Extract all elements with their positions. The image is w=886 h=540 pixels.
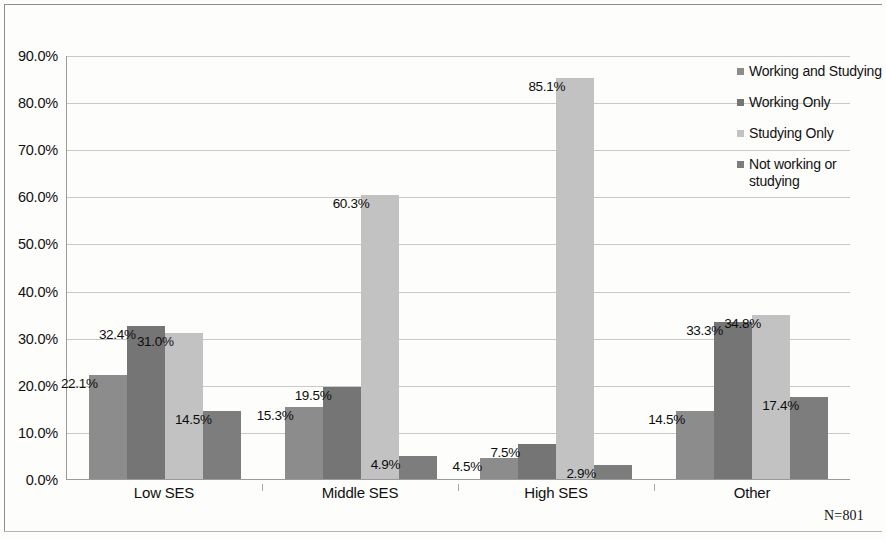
bar-value-label: 2.9% [566, 466, 596, 481]
x-tick-mark [654, 484, 655, 491]
legend-item[interactable]: Not working or studying [737, 156, 883, 190]
x-tick-label: Low SES [66, 484, 262, 510]
bar[interactable]: 19.5% [323, 387, 361, 479]
y-tick-label: 30.0% [0, 331, 58, 347]
legend-label: Not working or studying [749, 156, 883, 190]
legend-swatch-icon [737, 99, 744, 106]
bar[interactable]: 22.1% [89, 375, 127, 479]
bar-value-label: 4.5% [452, 459, 482, 474]
bar-slot: 7.5% [518, 56, 556, 479]
sample-size-note: N=801 [824, 508, 864, 524]
bar[interactable]: 14.5% [676, 411, 714, 479]
bar-slot: 22.1% [89, 56, 127, 479]
bar[interactable]: 17.4% [790, 397, 828, 479]
y-tick-label: 20.0% [0, 378, 58, 394]
x-tick-mark [262, 484, 263, 491]
y-tick-label: 40.0% [0, 284, 58, 300]
legend-swatch-icon [737, 130, 744, 137]
bar-value-label: 85.1% [528, 79, 565, 94]
x-tick-label: High SES [458, 484, 654, 510]
y-tick-label: 90.0% [0, 48, 58, 64]
bar[interactable]: 33.3% [714, 322, 752, 479]
bar[interactable]: 7.5% [518, 444, 556, 479]
bar[interactable]: 14.5% [203, 411, 241, 479]
bar-value-label: 33.3% [686, 323, 723, 338]
legend-swatch-icon [737, 161, 744, 168]
bar-value-label: 19.5% [295, 388, 332, 403]
x-tick-label: Other [654, 484, 850, 510]
bar-slot: 4.5% [480, 56, 518, 479]
bar[interactable]: 15.3% [285, 407, 323, 479]
bar-group: 22.1%32.4%31.0%14.5% [67, 56, 263, 479]
legend-label: Studying Only [749, 125, 834, 142]
plot-area: 22.1%32.4%31.0%14.5%15.3%19.5%60.3%4.9%4… [66, 56, 850, 480]
y-tick-label: 50.0% [0, 236, 58, 252]
bar-value-label: 60.3% [333, 196, 370, 211]
bar-value-label: 34.8% [724, 316, 761, 331]
bar-value-label: 7.5% [490, 445, 520, 460]
bar-slot: 32.4% [127, 56, 165, 479]
y-axis: 0.0%10.0%20.0%30.0%40.0%50.0%60.0%70.0%8… [0, 48, 58, 480]
bar-slot: 85.1% [556, 56, 594, 479]
bar-value-label: 4.9% [371, 457, 401, 472]
chart-legend: Working and StudyingWorking OnlyStudying… [737, 63, 883, 204]
y-tick-label: 60.0% [0, 189, 58, 205]
legend-item[interactable]: Working and Studying [737, 63, 883, 80]
bar-value-label: 14.5% [648, 412, 685, 427]
bar[interactable]: 85.1% [556, 78, 594, 479]
bar-value-label: 14.5% [175, 412, 212, 427]
bar-group: 4.5%7.5%85.1%2.9% [459, 56, 655, 479]
bar[interactable]: 2.9% [594, 465, 632, 479]
legend-item[interactable]: Working Only [737, 94, 883, 111]
y-tick-label: 10.0% [0, 425, 58, 441]
bar-value-label: 31.0% [137, 334, 174, 349]
y-tick-label: 0.0% [0, 472, 58, 488]
y-tick-label: 80.0% [0, 95, 58, 111]
bar-slot: 19.5% [323, 56, 361, 479]
legend-item[interactable]: Studying Only [737, 125, 883, 142]
bar-value-label: 22.1% [61, 376, 98, 391]
legend-swatch-icon [737, 68, 744, 75]
page-border-bottom [4, 531, 882, 532]
bar-slot: 2.9% [594, 56, 632, 479]
bar-slot: 4.9% [399, 56, 437, 479]
bar-slot: 14.5% [203, 56, 241, 479]
bar[interactable]: 4.9% [399, 456, 437, 479]
x-axis: Low SESMiddle SESHigh SESOther [66, 484, 850, 510]
bar-value-label: 15.3% [257, 408, 294, 423]
bar-slot: 60.3% [361, 56, 399, 479]
x-tick-mark [458, 484, 459, 491]
bar[interactable]: 4.5% [480, 458, 518, 479]
bar[interactable]: 34.8% [752, 315, 790, 479]
bar[interactable]: 31.0% [165, 333, 203, 479]
bar-groups: 22.1%32.4%31.0%14.5%15.3%19.5%60.3%4.9%4… [67, 56, 850, 479]
bar[interactable]: 32.4% [127, 326, 165, 479]
bar-value-label: 17.4% [762, 398, 799, 413]
legend-label: Working Only [749, 94, 830, 111]
bar-slot: 15.3% [285, 56, 323, 479]
bar-slot: 14.5% [676, 56, 714, 479]
y-tick-label: 70.0% [0, 142, 58, 158]
bar-value-label: 32.4% [99, 327, 136, 342]
chart-page: 0.0%10.0%20.0%30.0%40.0%50.0%60.0%70.0%8… [0, 0, 886, 540]
legend-label: Working and Studying [749, 63, 882, 80]
bar-group: 15.3%19.5%60.3%4.9% [263, 56, 459, 479]
bar[interactable]: 60.3% [361, 195, 399, 479]
x-tick-label: Middle SES [262, 484, 458, 510]
